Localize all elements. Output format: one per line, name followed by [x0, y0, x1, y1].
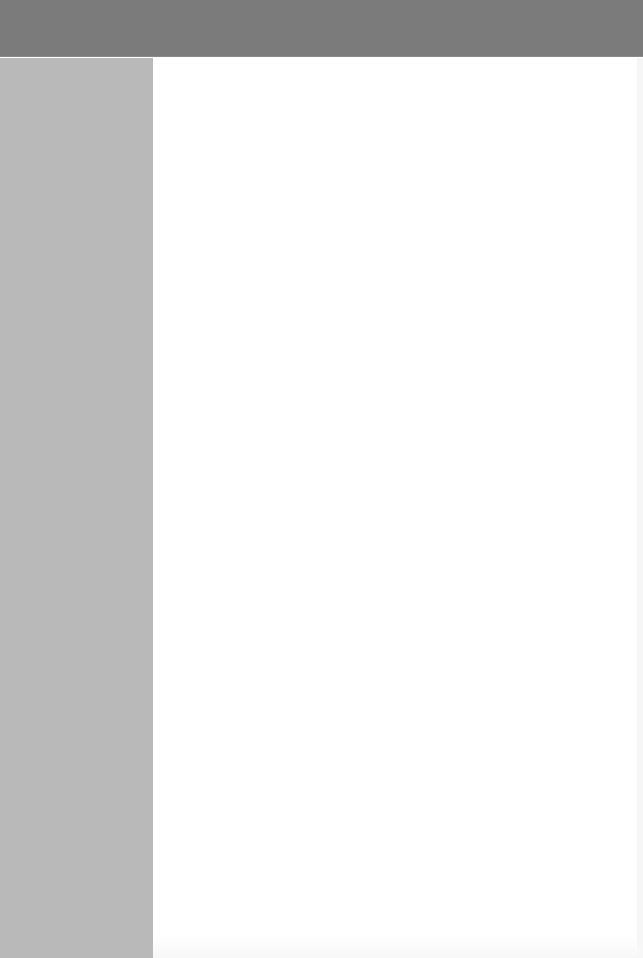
vertical-scrollbar[interactable]	[637, 58, 643, 958]
main-content-area	[153, 58, 643, 958]
top-header-bar	[0, 0, 643, 57]
sidebar	[0, 58, 153, 958]
app-window	[0, 0, 643, 958]
bottom-fade	[153, 936, 643, 958]
